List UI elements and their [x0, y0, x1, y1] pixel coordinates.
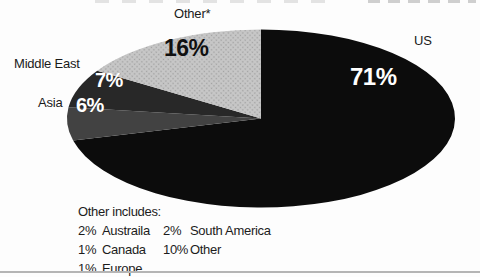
footnote-item-name: Europe — [102, 261, 142, 276]
footnote-column-2: 2%South America 10%Other — [163, 221, 271, 277]
slice-value-asia: 6% — [76, 95, 104, 116]
footnote-item-pct: 10% — [163, 240, 190, 259]
footnote-item-pct: 1% — [78, 259, 102, 277]
slice-value-middle-east: 7% — [95, 70, 123, 91]
footnote-item-name: Other — [190, 242, 221, 257]
footnote-heading: Other includes: — [78, 202, 271, 221]
slice-value-us: 71% — [350, 64, 397, 89]
footnote-item-name: South America — [190, 223, 271, 238]
slice-label-us: US — [414, 34, 432, 48]
footnote-item-pct: 1% — [78, 240, 102, 259]
footnote-item-south-america: 2%South America — [163, 221, 271, 240]
footnote-item-name: Austraila — [102, 223, 150, 238]
footnote-item-name: Canada — [102, 242, 146, 257]
footnote-item-austraila: 2%Austraila — [78, 221, 163, 240]
figure-pie-chart-world-share: US Asia Middle East Other* 71% 6% 7% 16%… — [0, 0, 480, 277]
footnote-item-pct: 2% — [163, 221, 190, 240]
pie-slices — [67, 29, 455, 207]
slice-value-other: 16% — [164, 36, 209, 60]
slice-label-middle-east: Middle East — [14, 57, 80, 71]
footnote-item-europe: 1%Europe — [78, 259, 163, 277]
figure-bottom-rule — [0, 271, 480, 273]
footnote-item-other: 10%Other — [163, 240, 271, 259]
footnote-item-pct: 2% — [78, 221, 102, 240]
footnote: Other includes: 2%Austraila 1%Canada 1%E… — [78, 202, 271, 277]
footnote-item-canada: 1%Canada — [78, 240, 163, 259]
slice-label-asia: Asia — [38, 96, 63, 110]
footnote-column-1: 2%Austraila 1%Canada 1%Europe — [78, 221, 163, 277]
slice-label-other: Other* — [174, 7, 210, 21]
